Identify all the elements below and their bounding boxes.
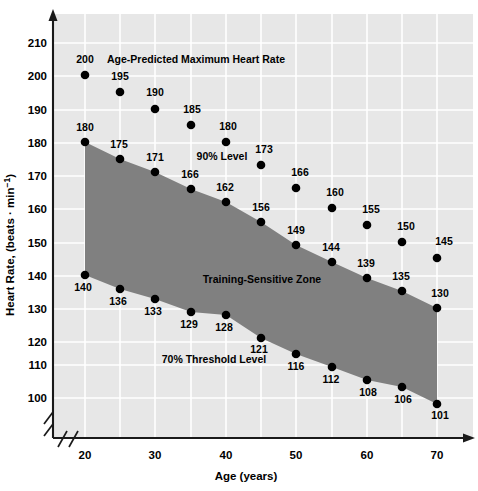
point-label: 162 — [216, 181, 234, 193]
x-tick-60: 60 — [361, 449, 374, 461]
point-label: 195 — [111, 70, 129, 82]
point-label: 166 — [291, 166, 309, 178]
data-point — [328, 363, 337, 372]
point-label: 149 — [287, 224, 305, 236]
point-label: 116 — [288, 360, 305, 372]
data-point — [151, 168, 160, 177]
y-tick-110: 110 — [28, 359, 47, 371]
data-point — [328, 204, 337, 213]
point-label: 156 — [252, 201, 270, 213]
x-tick-40: 40 — [220, 449, 233, 461]
point-label: 145 — [435, 235, 453, 247]
y-tick-180: 180 — [28, 137, 47, 149]
data-point — [81, 138, 90, 147]
y-tick-190: 190 — [28, 104, 47, 116]
y-tick-100: 100 — [28, 392, 47, 404]
x-tick-70: 70 — [431, 449, 444, 461]
point-label: 129 — [180, 318, 198, 330]
point-label: 144 — [322, 241, 340, 253]
y-tick-labels: 210 200 190 180 170 160 150 140 130 120 … — [28, 37, 47, 404]
data-point — [187, 121, 196, 130]
point-label: 112 — [323, 373, 340, 385]
data-point — [222, 311, 231, 320]
y-axis-title-close: ) — [4, 174, 16, 178]
y-axis-break-mark-2 — [44, 424, 53, 436]
x-tick-20: 20 — [79, 449, 92, 461]
data-point — [292, 350, 301, 359]
chart-svg: 210 200 190 180 170 160 150 140 130 120 … — [0, 0, 478, 491]
point-label: 155 — [362, 203, 380, 215]
heart-rate-training-zone-chart: 210 200 190 180 170 160 150 140 130 120 … — [0, 0, 478, 491]
data-point — [187, 185, 196, 194]
point-label: 175 — [110, 138, 128, 150]
y-tick-170: 170 — [28, 170, 47, 182]
data-point — [433, 400, 442, 409]
point-label: 101 — [431, 409, 449, 421]
point-label: 140 — [74, 281, 92, 293]
data-point — [433, 254, 442, 263]
annotation-90-percent-level: 90% Level — [197, 150, 248, 162]
x-tick-50: 50 — [290, 449, 303, 461]
point-label: 160 — [326, 186, 344, 198]
y-tick-150: 150 — [28, 237, 47, 249]
data-point — [187, 308, 196, 317]
y-tick-130: 130 — [28, 303, 47, 315]
data-point — [151, 105, 160, 114]
data-point — [116, 285, 125, 294]
x-tick-labels: 20 30 40 50 60 70 — [79, 449, 444, 461]
data-point — [257, 161, 266, 170]
point-label: 180 — [76, 121, 94, 133]
point-label: 171 — [146, 151, 164, 163]
data-point — [81, 271, 90, 280]
y-axis-title: Heart Rate, (beats · min−1) — [2, 174, 16, 316]
x-axis-title: Age (years) — [215, 470, 278, 482]
data-point — [398, 238, 407, 247]
point-label: 133 — [144, 305, 162, 317]
point-label: 185 — [183, 103, 201, 115]
y-axis-break-mark-1 — [44, 412, 53, 424]
y-tick-200: 200 — [28, 70, 47, 82]
y-tick-160: 160 — [28, 203, 47, 215]
point-label: 139 — [357, 257, 375, 269]
data-point — [257, 334, 266, 343]
data-point — [292, 241, 301, 250]
y-tick-120: 120 — [28, 336, 47, 348]
data-point — [222, 198, 231, 207]
data-point — [151, 295, 160, 304]
point-label: 108 — [359, 386, 377, 398]
y-axis-title-main: Heart Rate, (beats · min — [4, 188, 16, 316]
data-point — [363, 376, 372, 385]
point-label: 135 — [392, 270, 410, 282]
data-point — [363, 274, 372, 283]
data-point — [292, 184, 301, 193]
data-point — [328, 258, 337, 267]
point-label: 130 — [431, 287, 449, 299]
point-label: 106 — [394, 393, 412, 405]
point-label: 150 — [397, 220, 415, 232]
annotation-70-percent-threshold-level: 70% Threshold Level — [162, 353, 267, 365]
data-point — [81, 71, 90, 80]
y-axis-title-superscript: −1 — [2, 178, 12, 188]
data-point — [433, 304, 442, 313]
point-label: 166 — [181, 168, 199, 180]
y-tick-140: 140 — [28, 270, 47, 282]
y-tick-210: 210 — [28, 37, 47, 49]
point-label: 128 — [215, 321, 233, 333]
data-point — [222, 138, 231, 147]
data-point — [363, 221, 372, 230]
data-point — [116, 88, 125, 97]
data-point — [398, 287, 407, 296]
point-label: 190 — [146, 86, 164, 98]
data-point — [398, 383, 407, 392]
point-label: 200 — [76, 53, 94, 65]
point-label: 136 — [109, 295, 127, 307]
data-point — [116, 155, 125, 164]
point-label: 180 — [219, 120, 237, 132]
x-tick-30: 30 — [149, 449, 162, 461]
annotation-training-sensitive-zone: Training-Sensitive Zone — [203, 273, 322, 285]
data-point — [257, 218, 266, 227]
annotation-age-predicted-max-heart-rate: Age-Predicted Maximum Heart Rate — [107, 53, 285, 65]
point-label: 173 — [255, 143, 273, 155]
